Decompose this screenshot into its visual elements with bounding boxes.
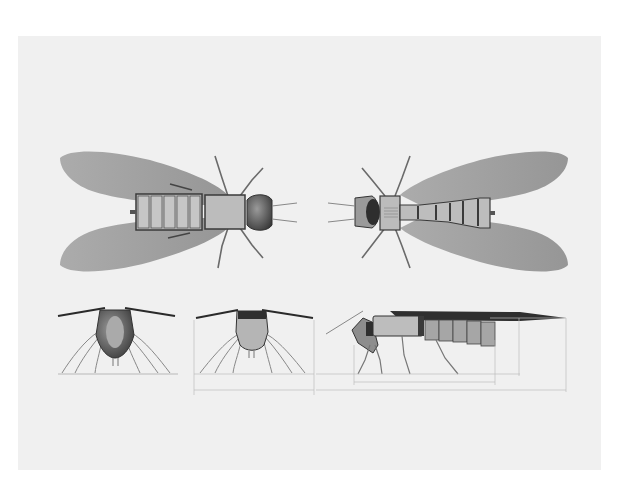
top-view — [60, 151, 297, 271]
bottom-view — [328, 151, 568, 271]
thorax-bottom — [380, 196, 400, 230]
insect-blueprint — [0, 0, 626, 495]
head-top — [247, 195, 272, 231]
side-view — [316, 311, 566, 392]
abdomen-top — [130, 194, 202, 230]
side-abdomen — [425, 320, 495, 346]
front-view — [58, 308, 178, 374]
wing-upper-right — [400, 151, 568, 205]
rear-view — [194, 310, 314, 395]
thorax-top — [205, 195, 245, 229]
side-thorax — [373, 316, 423, 336]
